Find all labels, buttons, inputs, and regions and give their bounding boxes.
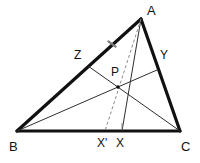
vertex-label-A: A bbox=[147, 4, 156, 17]
point-label-P: P bbox=[111, 66, 119, 78]
point-P-dot bbox=[116, 85, 120, 89]
point-label-X: X bbox=[116, 137, 124, 149]
vertex-label-B: B bbox=[9, 140, 18, 153]
side-AB bbox=[17, 19, 141, 131]
side-AC bbox=[141, 19, 180, 131]
point-label-Z: Z bbox=[74, 49, 81, 61]
vertex-label-C: C bbox=[181, 140, 190, 153]
cevian-CZ bbox=[88, 66, 180, 131]
point-label-Y: Y bbox=[160, 49, 168, 61]
point-label-X-prime: X' bbox=[97, 137, 107, 149]
geometry-figure: A B C Z Y P X' X bbox=[0, 0, 200, 163]
cevian-AX bbox=[122, 19, 141, 131]
